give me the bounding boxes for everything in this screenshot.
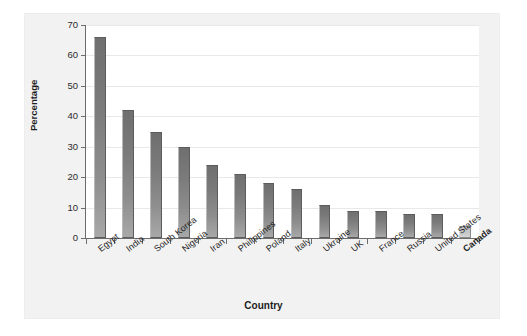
bars-layer (86, 25, 479, 238)
y-axis-tick-label: 50 (52, 80, 78, 91)
y-axis-tick-mark (81, 86, 85, 87)
y-axis-title: Percentage (28, 80, 39, 131)
y-axis-tick-mark (81, 208, 85, 209)
y-axis-tick-label: 0 (52, 232, 78, 243)
y-axis-tick-mark (81, 147, 85, 148)
bar (122, 110, 134, 238)
bar (234, 174, 246, 238)
y-axis-tick-label: 20 (52, 171, 78, 182)
x-axis-tick-mark (86, 239, 87, 244)
x-axis-title: Country (0, 300, 527, 311)
bar (206, 165, 218, 238)
bar (319, 205, 331, 238)
y-axis-tick-mark (81, 177, 85, 178)
bar-chart-figure: 010203040506070 EgyptIndiaSouth KoreaNig… (0, 0, 527, 336)
y-axis-tick-mark (81, 116, 85, 117)
y-axis-tick-mark (81, 238, 85, 239)
y-axis-tick-label: 60 (52, 49, 78, 60)
y-axis-tick-label: 30 (52, 141, 78, 152)
y-axis-tick-mark (81, 25, 85, 26)
bar (375, 211, 387, 238)
y-axis-tick-label: 10 (52, 202, 78, 213)
y-axis-tick-label: 70 (52, 19, 78, 30)
bar (291, 189, 303, 238)
bar (431, 214, 443, 238)
y-axis-tick-label: 40 (52, 110, 78, 121)
bar (94, 37, 106, 238)
y-axis-tick-mark (81, 55, 85, 56)
bar (150, 132, 162, 239)
x-axis-tick-mark (367, 239, 368, 244)
